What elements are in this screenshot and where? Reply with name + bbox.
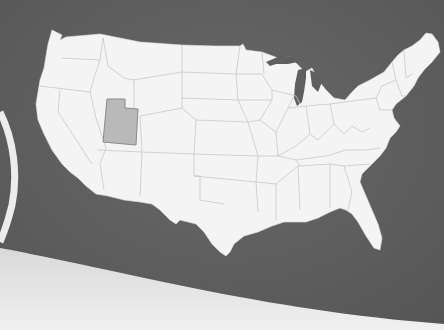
map-scene — [0, 0, 444, 330]
